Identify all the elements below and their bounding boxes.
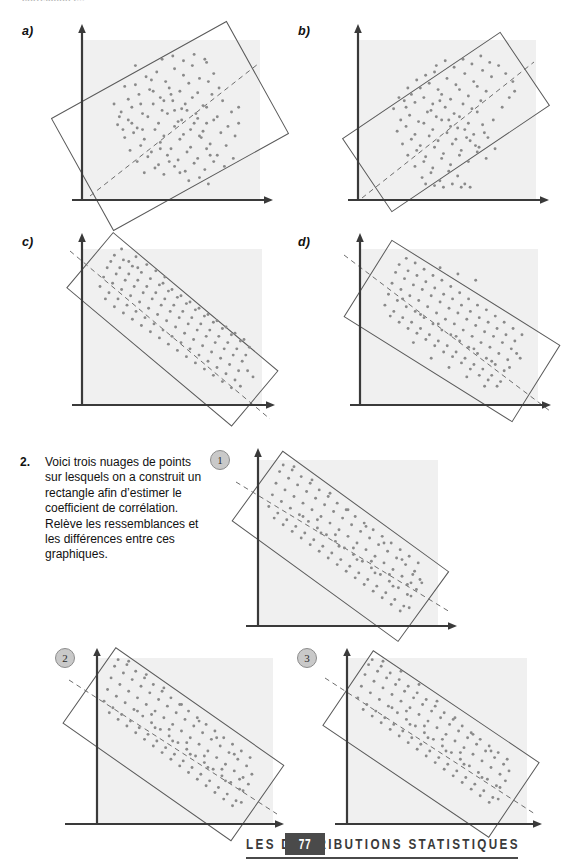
scatter-chart-b <box>328 22 553 222</box>
scatter-point <box>242 776 245 779</box>
page-number-box: 77 <box>285 833 325 855</box>
scatter-point <box>374 710 377 713</box>
scatter-chart-c <box>52 233 282 428</box>
scatter-point <box>408 294 411 297</box>
scatter-point <box>134 64 137 67</box>
scatter-point <box>494 363 497 366</box>
scatter-point <box>139 144 142 147</box>
scatter-point <box>443 768 446 771</box>
scatter-point <box>189 301 192 304</box>
scatter-point <box>184 103 187 106</box>
scatter-point <box>203 315 206 318</box>
scatter-point <box>198 743 201 746</box>
scatter-point <box>130 122 133 125</box>
scatter-point <box>432 274 435 277</box>
scatter-point <box>171 99 174 102</box>
scatter-point <box>363 522 366 525</box>
scatter-point <box>181 310 184 313</box>
scatter-point <box>424 155 427 158</box>
scatter-point <box>357 571 360 574</box>
scatter-point <box>180 119 183 122</box>
scatter-point <box>145 285 148 288</box>
scatter-point <box>469 368 472 371</box>
scatter-point <box>430 294 433 297</box>
scatter-point <box>399 288 402 291</box>
scatter-point <box>391 282 394 285</box>
scatter-point <box>386 550 389 553</box>
scatter-point <box>462 58 465 61</box>
scatter-point <box>388 573 391 576</box>
scatter-point <box>519 357 522 360</box>
figure-a: a) <box>22 22 277 222</box>
scatter-point <box>208 779 211 782</box>
scatter-point <box>130 106 133 109</box>
scatter-point <box>178 90 181 93</box>
scatter-point <box>505 333 508 336</box>
scatter-point <box>155 740 158 743</box>
scatter-point <box>469 310 472 313</box>
scatter-point <box>412 341 415 344</box>
scatter-point <box>370 566 373 569</box>
scatter-point <box>206 766 209 769</box>
scatter-point <box>439 716 442 719</box>
scatter-point <box>394 271 397 274</box>
scatter-point <box>222 736 225 739</box>
scatter-point <box>396 299 399 302</box>
scatter-point <box>414 725 417 728</box>
scatter-point <box>173 109 176 112</box>
plot-two <box>65 648 290 843</box>
scatter-point <box>194 754 197 757</box>
scatter-point <box>300 475 303 478</box>
scatter-point <box>434 705 437 708</box>
scatter-point <box>458 88 461 91</box>
scatter-point <box>383 561 386 564</box>
scatter-point <box>460 304 463 307</box>
scatter-point <box>493 756 496 759</box>
scatter-point <box>314 497 317 500</box>
scatter-point <box>475 743 478 746</box>
scatter-point <box>215 736 218 739</box>
plot-three <box>319 648 549 843</box>
scatter-point <box>390 603 393 606</box>
scatter-point <box>246 369 249 372</box>
scatter-point <box>143 138 146 141</box>
scatter-point <box>501 341 504 344</box>
scatter-point <box>410 595 413 598</box>
scatter-point <box>373 680 376 683</box>
scatter-point <box>187 322 190 325</box>
scatter-point <box>472 753 475 756</box>
figure-one: 1 <box>210 448 460 643</box>
scatter-point <box>446 77 449 80</box>
scatter-point <box>421 288 424 291</box>
scatter-point <box>234 332 237 335</box>
scatter-point <box>401 575 404 578</box>
scatter-point <box>393 598 396 601</box>
scatter-point <box>171 335 174 338</box>
scatter-point <box>345 570 348 573</box>
scatter-point <box>165 319 168 322</box>
scatter-point <box>193 162 196 165</box>
scatter-point <box>483 385 486 388</box>
scatter-point <box>116 123 119 126</box>
scatter-point <box>354 515 357 518</box>
scatter-point <box>448 307 451 310</box>
scatter-point <box>327 495 330 498</box>
scatter-point <box>190 316 193 319</box>
scatter-point <box>212 160 215 163</box>
scatter-point <box>398 263 401 266</box>
scatter-point <box>451 355 454 358</box>
scatter-point <box>182 759 185 762</box>
scatter-point <box>177 120 180 123</box>
scatter-point <box>431 103 434 106</box>
scatter-point <box>383 304 386 307</box>
scatter-point <box>405 305 408 308</box>
scatter-point <box>162 716 165 719</box>
scatter-point <box>382 660 385 663</box>
scatter-point <box>477 771 480 774</box>
scatter-point <box>403 277 406 280</box>
scatter-point <box>133 285 136 288</box>
scatter-point <box>154 726 157 729</box>
scatter-point <box>363 583 366 586</box>
scatter-point <box>149 277 152 280</box>
scatter-point <box>161 690 164 693</box>
